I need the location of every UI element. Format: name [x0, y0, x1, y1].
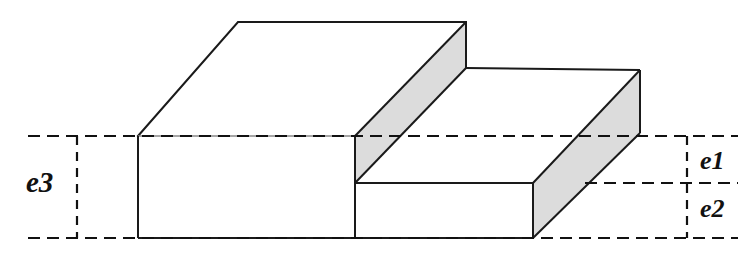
diagram-canvas: e3 e1 e2	[0, 0, 755, 257]
lower-slab-front-face	[355, 183, 533, 238]
dimension-label-e3: e3	[26, 168, 53, 197]
upper-slab-front-face	[138, 136, 355, 238]
stepped-slab-drawing	[0, 0, 755, 257]
dimension-label-e1: e1	[700, 148, 725, 174]
dimension-label-e2: e2	[700, 196, 725, 222]
